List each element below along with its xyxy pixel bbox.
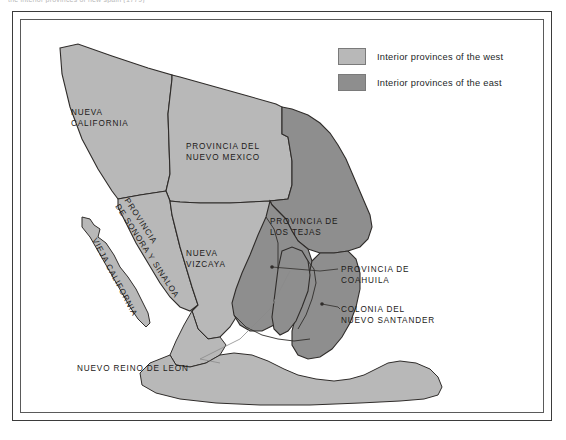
callout-provincia-de-coahuila: PROVINCIA DE COAHUILA bbox=[341, 264, 409, 286]
leader-dot-nuevo-santander bbox=[320, 302, 324, 306]
legend-swatch-west bbox=[338, 48, 366, 65]
callout-nuevo-reino-de-leon: NUEVO REINO DE LEON bbox=[77, 363, 189, 374]
legend-label-east: Interior provinces of the east bbox=[377, 78, 502, 88]
legend-item-west: Interior provinces of the west bbox=[338, 48, 503, 65]
callout-colonia-del-nuevo-santander: COLONIA DEL NUEVO SANTANDER bbox=[341, 304, 435, 326]
legend-label-west: Interior provinces of the west bbox=[377, 52, 503, 62]
label-provincia-de-los-tejas: PROVINCIA DE LOS TEJAS bbox=[270, 216, 338, 238]
legend-item-east: Interior provinces of the east bbox=[338, 74, 503, 91]
leader-dot-coahuila bbox=[270, 265, 274, 269]
label-nueva-california: NUEVA CALIFORNIA bbox=[71, 107, 129, 129]
label-nueva-vizcaya: NUEVA VIZCAYA bbox=[186, 248, 226, 270]
label-provincia-del-nuevo-mexico: PROVINCIA DEL NUEVO MEXICO bbox=[186, 141, 260, 163]
legend: Interior provinces of the west Interior … bbox=[338, 48, 503, 100]
clipped-header-text: the interior provinces of new spain (177… bbox=[8, 0, 145, 3]
region-provincia-del-nuevo-mexico bbox=[166, 75, 292, 203]
legend-swatch-east bbox=[338, 74, 366, 91]
map-figure: the interior provinces of new spain (177… bbox=[0, 0, 566, 440]
